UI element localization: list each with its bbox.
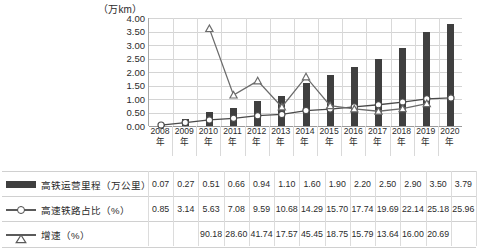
x-axis-label-year: 2012 (245, 126, 269, 137)
x-axis-label-suffix: 年 (438, 137, 462, 148)
chart-area: 4.003.503.002.502.001.501.000.500.00 (0, 14, 478, 140)
x-axis-label-suffix: 年 (365, 137, 389, 148)
y-tick-label: 1.50 (127, 81, 146, 90)
x-axis-label: 2011年 (220, 126, 244, 148)
table-cell: 1.10 (274, 172, 299, 197)
y-tick-label: 3.00 (127, 41, 146, 50)
x-axis-label-year: 2010 (196, 126, 220, 137)
table-cell: 20.69 (426, 222, 451, 247)
x-axis-label-suffix: 年 (414, 137, 438, 148)
table-row: 高速铁路占比（%）0.853.145.637.089.5910.6814.291… (2, 196, 476, 222)
line-path-triangle (209, 29, 426, 112)
x-axis-label: 2009年 (172, 126, 196, 148)
x-axis-label-suffix: 年 (341, 137, 365, 148)
x-axis-label: 2010年 (196, 126, 220, 148)
line-circle-swatch-icon (6, 205, 36, 215)
table-column-separator (426, 171, 427, 246)
legend-triangle-marker (15, 230, 27, 240)
table-row: 增速（%）90.1828.6041.7417.5745.4518.7515.79… (2, 221, 476, 248)
y-tick-label: 1.00 (127, 95, 146, 104)
table-cell: 22.14 (400, 197, 425, 222)
legend-label: 高速铁路占比（%） (41, 203, 130, 217)
table-cell: 16.00 (400, 222, 425, 247)
table-cell: 0.85 (148, 197, 173, 222)
table-cell: 41.74 (249, 222, 274, 247)
x-axis-label-year: 2016 (341, 126, 365, 137)
y-axis-tick-labels: 4.003.503.002.502.001.501.000.500.00 (103, 14, 145, 126)
x-axis-label: 2017年 (365, 126, 389, 148)
table-cell: 0.94 (249, 172, 274, 197)
table-cell: 14.29 (299, 197, 324, 222)
x-axis-label-year: 2015 (317, 126, 341, 137)
table-cell: 1.60 (299, 172, 324, 197)
line-series-group (149, 18, 462, 126)
table-cell: 17.74 (350, 197, 375, 222)
plot-area (148, 18, 462, 126)
table-column-separator (476, 171, 477, 246)
table-row: 高铁运营里程（万公里）0.070.270.510.660.941.101.601… (2, 171, 476, 197)
x-axis-label-year: 2013 (269, 126, 293, 137)
legend-label: 增速（%） (41, 228, 90, 242)
table-cell (173, 222, 198, 247)
table-column-separator (299, 171, 300, 246)
table-cell: 19.69 (375, 197, 400, 222)
table-cell: 13.64 (375, 222, 400, 247)
y-tick-label: 2.50 (127, 54, 146, 63)
marker-triangle (302, 73, 309, 79)
x-axis-label-year: 2018 (390, 126, 414, 137)
chart-page: （万km） 4.003.503.002.502.001.501.000.500.… (0, 0, 478, 250)
x-axis-label-suffix: 年 (293, 137, 317, 148)
marker-circle (448, 95, 454, 101)
marker-circle (230, 115, 236, 121)
table-column-separator (451, 171, 452, 246)
x-axis-label-year: 2009 (172, 126, 196, 137)
table-cell: 18.75 (325, 222, 350, 247)
table-column-separator (198, 171, 199, 246)
table-cell: 25.18 (426, 197, 451, 222)
table-cell: 3.14 (173, 197, 198, 222)
legend-circle-marker (17, 206, 25, 214)
marker-circle (182, 120, 188, 126)
table-cell: 15.70 (325, 197, 350, 222)
y-tick-label: 3.50 (127, 27, 146, 36)
table-column-separator (350, 171, 351, 246)
table-column-separator (375, 171, 376, 246)
table-cell: 0.66 (224, 172, 249, 197)
table-cell: 2.20 (350, 172, 375, 197)
table-column-separator (173, 171, 174, 246)
x-axis-label-suffix: 年 (317, 137, 341, 148)
table-cell: 17.57 (274, 222, 299, 247)
x-axis-label: 2014年 (293, 126, 317, 148)
table-cell: 7.08 (224, 197, 249, 222)
legend-cell: 增速（%） (2, 222, 148, 247)
table-cell: 15.79 (350, 222, 375, 247)
table-cell: 3.50 (426, 172, 451, 197)
x-axis-label: 2012年 (245, 126, 269, 148)
y-tick-label: 2.00 (127, 68, 146, 77)
x-axis-label: 2013年 (269, 126, 293, 148)
x-axis-label-suffix: 年 (220, 137, 244, 148)
table-column-separator (400, 171, 401, 246)
legend-cell: 高铁运营里程（万公里） (2, 172, 148, 197)
y-tick-label: 0.50 (127, 108, 146, 117)
table-cell: 45.45 (299, 222, 324, 247)
x-axis-label: 2018年 (390, 126, 414, 148)
marker-triangle (230, 92, 237, 98)
x-axis-label-suffix: 年 (148, 137, 172, 148)
marker-triangle (254, 77, 261, 83)
x-axis-label-year: 2008 (148, 126, 172, 137)
x-axis-label-year: 2019 (414, 126, 438, 137)
x-axis-label: 2020年 (438, 126, 462, 148)
table-cell: 3.79 (451, 172, 476, 197)
table-column-separator (148, 171, 149, 246)
x-axis-labels: 2008年2009年2010年2011年2012年2013年2014年2015年… (148, 126, 462, 158)
table-cell: 28.60 (224, 222, 249, 247)
marker-circle (303, 107, 309, 113)
table-cell: 5.63 (198, 197, 223, 222)
legend-label: 高铁运营里程（万公里） (41, 178, 151, 192)
x-axis-label-year: 2011 (220, 126, 244, 137)
x-axis-label-year: 2020 (438, 126, 462, 137)
bar-swatch-icon (6, 181, 36, 188)
table-cell: 1.90 (325, 172, 350, 197)
y-tick-label: 0.00 (127, 122, 146, 131)
